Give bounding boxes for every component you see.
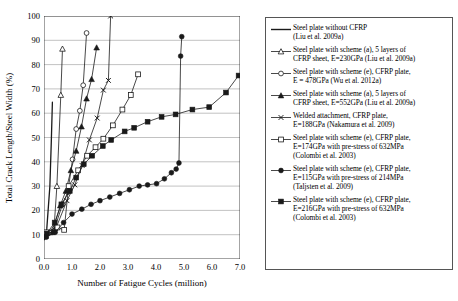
chart-legend: Steel plate without CFRP (Liu et al. 200… <box>265 17 453 270</box>
legend-item[interactable]: Steel plate with scheme (e), CFRP plate,… <box>269 67 448 85</box>
legend-item[interactable]: Steel plate with scheme (a), 5 layers of… <box>269 89 448 107</box>
legend-key <box>269 165 293 176</box>
legend-key <box>269 112 293 123</box>
legend-key <box>269 196 293 207</box>
y-axis-tick-label: 30 <box>32 182 45 191</box>
y-axis-tick-label: 60 <box>32 109 45 118</box>
legend-item[interactable]: Steel plate with scheme (e), CFRP plate,… <box>269 164 448 192</box>
legend-label: Welded attachment, CFRP plate, E=188GPa … <box>293 111 394 129</box>
legend-key <box>269 68 293 79</box>
legend-marker-cross <box>269 112 293 123</box>
y-axis-tick-label: 10 <box>32 230 45 239</box>
data-point-marker <box>279 199 284 204</box>
x-axis-tick-label: 3.0 <box>123 259 134 272</box>
legend-marker-filled-square <box>269 196 293 207</box>
data-point-marker <box>279 168 284 173</box>
legend-item[interactable]: Welded attachment, CFRP plate, E=188GPa … <box>269 111 448 129</box>
legend-label: Steel plate with scheme (e), CFRP plate,… <box>293 195 411 223</box>
legend-key <box>269 134 293 145</box>
legend-label: Steel plate without CFRP (Liu et al. 200… <box>293 23 367 41</box>
legend-label: Steel plate with scheme (e), CFRP plate,… <box>293 133 411 161</box>
legend-key <box>269 24 293 35</box>
data-point-marker <box>279 137 284 142</box>
y-axis-tick-label: 20 <box>32 206 45 215</box>
y-axis-tick-label: 70 <box>32 85 45 94</box>
legend-key <box>269 46 293 57</box>
data-point-marker <box>279 71 284 76</box>
legend-marker-filled-triangle <box>269 90 293 101</box>
legend-key <box>269 90 293 101</box>
figure-container: Total Crack Length/Steel Width (%) 01020… <box>0 0 458 301</box>
plot-frame <box>44 16 240 259</box>
x-axis-title: Number of Fatigue Cycles (million) <box>44 278 240 288</box>
x-axis-title-text: Number of Fatigue Cycles (million) <box>77 278 206 288</box>
legend-label: Steel plate with scheme (a), 5 layers of… <box>293 45 415 63</box>
x-axis-tick-label: 5.0 <box>179 259 190 272</box>
y-axis-title-text: Total Crack Length/Steel Width (%) <box>4 72 14 202</box>
legend-marker-open-circle <box>269 68 293 79</box>
legend-marker-filled-circle <box>269 165 293 176</box>
legend-label: Steel plate with scheme (e), CFRP plate,… <box>293 164 411 192</box>
x-axis-tick-label: 6.0 <box>207 259 218 272</box>
x-axis-tick-label: 1.0 <box>67 259 78 272</box>
x-axis-tick-label: 7.0 <box>235 259 246 272</box>
plot-area: 01020304050607080901000.01.02.03.04.05.0… <box>44 16 240 259</box>
legend-marker-open-square <box>269 134 293 145</box>
legend-item[interactable]: Steel plate without CFRP (Liu et al. 200… <box>269 23 448 41</box>
y-axis-tick-label: 90 <box>32 36 45 45</box>
legend-label: Steel plate with scheme (a), 5 layers of… <box>293 89 415 107</box>
y-axis-tick-label: 80 <box>32 60 45 69</box>
x-axis-tick-label: 2.0 <box>95 259 106 272</box>
x-axis-tick-label: 4.0 <box>151 259 162 272</box>
legend-item[interactable]: Steel plate with scheme (e), CFRP plate,… <box>269 195 448 223</box>
y-axis-tick-label: 40 <box>32 158 45 167</box>
y-axis-tick-label: 100 <box>27 12 44 21</box>
y-axis-title: Total Crack Length/Steel Width (%) <box>2 16 16 259</box>
legend-marker-open-triangle <box>269 46 293 57</box>
legend-label: Steel plate with scheme (e), CFRP plate,… <box>293 67 411 85</box>
x-axis-tick-label: 0.0 <box>39 259 50 272</box>
y-axis-tick-label: 50 <box>32 133 45 142</box>
legend-item[interactable]: Steel plate with scheme (a), 5 layers of… <box>269 45 448 63</box>
legend-marker-plain-line <box>269 24 293 35</box>
legend-item[interactable]: Steel plate with scheme (e), CFRP plate,… <box>269 133 448 161</box>
